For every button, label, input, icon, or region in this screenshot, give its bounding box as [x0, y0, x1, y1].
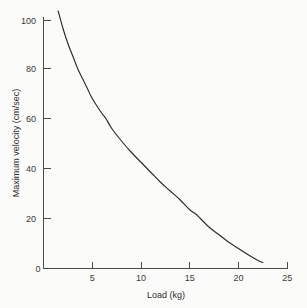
chart-figure: 0 5 10 15 20 25 20 40 60 80 100 Load (kg…: [0, 0, 307, 308]
y-tick-label-100: 100: [21, 16, 36, 26]
x-tick-label-15: 15: [185, 273, 195, 283]
y-axis-title: Maximum velocity (cm/sec): [11, 89, 21, 198]
y-tick-label-40: 40: [26, 164, 36, 174]
y-tick-label-80: 80: [26, 64, 36, 74]
x-tick-label-20: 20: [233, 273, 243, 283]
x-axis-ticks: [92, 262, 287, 269]
x-tick-label-10: 10: [136, 273, 146, 283]
y-tick-label-60: 60: [26, 114, 36, 124]
x-tick-label-25: 25: [282, 273, 292, 283]
y-axis-ticks: [44, 21, 51, 219]
x-tick-label-0: 0: [35, 264, 40, 274]
x-axis-title: Load (kg): [147, 290, 185, 300]
y-tick-label-20: 20: [26, 214, 36, 224]
data-curve-force-velocity: [58, 11, 263, 263]
x-tick-label-5: 5: [90, 273, 95, 283]
chart-plot-area: 0 5 10 15 20 25 20 40 60 80 100 Load (kg…: [0, 0, 307, 308]
